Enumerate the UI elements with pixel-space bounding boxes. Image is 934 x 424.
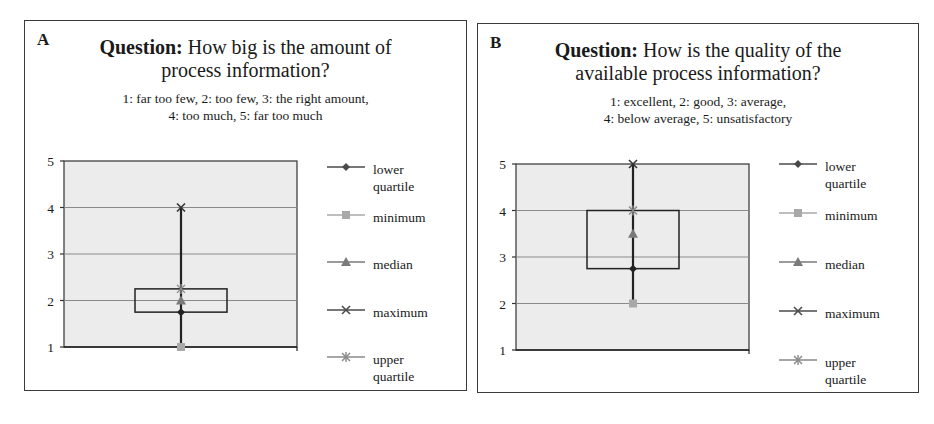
legend-item: median bbox=[779, 261, 919, 301]
square-marker-icon bbox=[794, 209, 802, 217]
square-marker-icon bbox=[629, 300, 637, 308]
legend-item: lowerquartile bbox=[779, 163, 919, 203]
legend-label: median bbox=[825, 256, 865, 273]
y-tick-label: 1 bbox=[47, 340, 54, 355]
y-tick-label: 3 bbox=[499, 250, 506, 265]
legend-item: upperquartile bbox=[327, 356, 467, 396]
y-tick-label: 2 bbox=[499, 297, 506, 312]
legend-label: minimum bbox=[373, 209, 426, 226]
square-marker-icon bbox=[177, 343, 185, 351]
legend-label: median bbox=[373, 256, 413, 273]
legend-label: maximum bbox=[825, 305, 880, 322]
legend-label: lowerquartile bbox=[373, 161, 414, 195]
y-tick-label: 4 bbox=[47, 201, 54, 216]
legend-label: upperquartile bbox=[825, 354, 866, 388]
legend-item: maximum bbox=[779, 310, 919, 350]
y-tick-label: 4 bbox=[499, 204, 506, 219]
diamond-marker-icon bbox=[342, 163, 350, 171]
legend-item: lowerquartile bbox=[327, 166, 467, 206]
legend-label: upperquartile bbox=[373, 351, 414, 385]
square-marker-icon bbox=[342, 211, 350, 219]
panel-a: A Question: How big is the amount of pro… bbox=[24, 20, 467, 391]
legend-item: minimum bbox=[327, 214, 467, 254]
y-tick-label: 1 bbox=[499, 343, 506, 358]
legend-label: lowerquartile bbox=[825, 158, 866, 192]
y-tick-label: 5 bbox=[47, 154, 54, 169]
legend-item: minimum bbox=[779, 212, 919, 252]
y-tick-label: 5 bbox=[499, 157, 506, 172]
panel-b: B Question: How is the quality of the av… bbox=[477, 23, 919, 393]
y-tick-label: 2 bbox=[47, 294, 54, 309]
legend-item: upperquartile bbox=[779, 359, 919, 399]
legend-label: maximum bbox=[373, 304, 428, 321]
legend-item: median bbox=[327, 261, 467, 301]
diamond-marker-icon bbox=[794, 160, 802, 168]
legend-label: minimum bbox=[825, 207, 878, 224]
y-tick-label: 3 bbox=[47, 247, 54, 262]
legend-item: maximum bbox=[327, 309, 467, 349]
